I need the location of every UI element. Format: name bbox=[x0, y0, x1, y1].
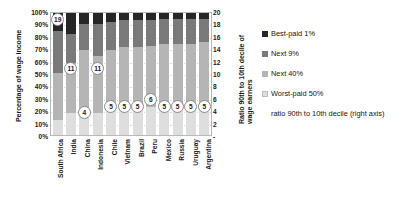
bar-segment bbox=[65, 113, 77, 135]
ratio-marker: 19 bbox=[51, 13, 64, 26]
bar-column: 11 bbox=[91, 13, 104, 135]
bar-segment bbox=[105, 109, 117, 135]
bar-group: 191141155565555 bbox=[51, 13, 211, 135]
bar-column: 5 bbox=[184, 13, 197, 135]
legend-item[interactable]: Best-paid 1% bbox=[262, 30, 408, 39]
legend-item[interactable]: Next 9% bbox=[262, 50, 408, 59]
legend-swatch-icon bbox=[262, 31, 268, 37]
secondary-axis-tick-label: 12 bbox=[213, 58, 220, 65]
stacked-bar-chart: Percentage of wage income 100%90%80%70%6… bbox=[0, 0, 412, 200]
y-axis-tick-label: 90% bbox=[35, 21, 48, 28]
secondary-axis-tick-labels: 2018161412108642- bbox=[213, 12, 229, 136]
y-axis-tick-label: 70% bbox=[35, 46, 48, 53]
x-axis-category-labels: South AfricaIndiaChinaIndonesiaChileViet… bbox=[50, 138, 212, 196]
y-axis-tick-label: 100% bbox=[31, 9, 48, 16]
y-axis-tick-label: 0% bbox=[38, 133, 48, 140]
bar-column: 5 bbox=[118, 13, 131, 135]
legend-label: Best-paid 1% bbox=[271, 30, 315, 39]
bar-segment bbox=[78, 24, 90, 50]
bar-column: 5 bbox=[198, 13, 211, 135]
ratio-marker: 5 bbox=[158, 100, 171, 113]
legend-swatch-icon bbox=[262, 111, 268, 117]
bar-column: 6 bbox=[144, 13, 157, 135]
x-axis-category-label: Argentina bbox=[205, 139, 212, 170]
secondary-axis-tick-label: 18 bbox=[213, 21, 220, 28]
secondary-axis-tick-label: 10 bbox=[213, 71, 220, 78]
x-axis-category-cell: South Africa bbox=[50, 138, 64, 196]
x-axis-category-cell: Argentina bbox=[199, 138, 213, 196]
bar-segment bbox=[158, 19, 170, 43]
bar-column: 4 bbox=[78, 13, 91, 135]
legend-swatch-icon bbox=[262, 91, 268, 97]
y-axis-tick-label: 30% bbox=[35, 95, 48, 102]
bar-segment bbox=[52, 120, 64, 135]
x-axis-category-cell: Indonesia bbox=[91, 138, 105, 196]
bar-segment bbox=[65, 13, 77, 34]
secondary-axis-tick-label: 6 bbox=[213, 95, 217, 102]
bar-segment bbox=[92, 13, 104, 24]
bar-segment bbox=[185, 44, 197, 107]
bar-segment bbox=[92, 24, 104, 56]
secondary-axis-title: Ratio 90th to 10th decile of wage earner… bbox=[238, 16, 255, 124]
x-axis-category-cell: Uruguay bbox=[185, 138, 199, 196]
bar-segment bbox=[172, 19, 184, 43]
bar-segment bbox=[105, 22, 117, 50]
secondary-axis-tick-label: 14 bbox=[213, 46, 220, 53]
bar-segment bbox=[65, 34, 77, 63]
bar-segment bbox=[105, 13, 117, 22]
bar-segment bbox=[92, 113, 104, 135]
bar-segment bbox=[145, 13, 157, 20]
secondary-axis-tick-label: 20 bbox=[213, 9, 220, 16]
bar-segment bbox=[118, 20, 130, 47]
legend-item[interactable]: Worst-paid 50% bbox=[262, 90, 408, 99]
x-axis-category-cell: China bbox=[77, 138, 91, 196]
y-axis-tick-label: 20% bbox=[35, 108, 48, 115]
secondary-axis-tick-label: - bbox=[213, 133, 215, 140]
legend-label: Next 40% bbox=[271, 70, 303, 79]
plot-area: 191141155565555 bbox=[50, 12, 212, 136]
legend-label: Next 9% bbox=[271, 50, 299, 59]
legend-item[interactable]: Next 40% bbox=[262, 70, 408, 79]
bar-segment bbox=[132, 20, 144, 47]
y-axis-tick-label: 80% bbox=[35, 33, 48, 40]
y-axis-tick-label: 60% bbox=[35, 58, 48, 65]
x-axis-category-cell: India bbox=[64, 138, 78, 196]
bar-segment bbox=[78, 13, 90, 24]
bar-segment bbox=[132, 13, 144, 20]
bar-segment bbox=[158, 44, 170, 107]
bar-segment bbox=[52, 31, 64, 72]
ratio-marker: 5 bbox=[198, 100, 211, 113]
ratio-marker: 5 bbox=[104, 100, 117, 113]
ratio-marker: 5 bbox=[171, 100, 184, 113]
bar-segment bbox=[172, 44, 184, 107]
y-axis-tick-label: 50% bbox=[35, 71, 48, 78]
secondary-axis-tick-label: 16 bbox=[213, 33, 220, 40]
bar-segment bbox=[118, 13, 130, 20]
ratio-marker: 5 bbox=[184, 100, 197, 113]
legend: Best-paid 1%Next 9%Next 40%Worst-paid 50… bbox=[262, 30, 408, 130]
ratio-marker: 5 bbox=[118, 100, 131, 113]
x-axis-category-cell: Peru bbox=[145, 138, 159, 196]
legend-swatch-icon bbox=[262, 51, 268, 57]
secondary-axis-tick-label: 8 bbox=[213, 83, 217, 90]
bar-column: 11 bbox=[64, 13, 77, 135]
legend-label: Worst-paid 50% bbox=[271, 90, 323, 99]
bar-segment bbox=[52, 73, 64, 121]
bar-segment bbox=[145, 20, 157, 46]
y-axis-tick-labels: 100%90%80%70%60%50%40%30%20%10%0% bbox=[22, 12, 48, 136]
legend-swatch-icon bbox=[262, 71, 268, 77]
x-axis-category-cell: Brazil bbox=[131, 138, 145, 196]
y-axis-tick-label: 10% bbox=[35, 120, 48, 127]
legend-item[interactable]: ratio 90th to 10th decile (right axis) bbox=[262, 110, 408, 119]
y-axis-tick-label: 40% bbox=[35, 83, 48, 90]
ratio-marker: 5 bbox=[131, 100, 144, 113]
bar-column: 5 bbox=[158, 13, 171, 135]
bar-segment bbox=[198, 19, 210, 42]
secondary-axis-tick-label: 4 bbox=[213, 108, 217, 115]
bar-segment bbox=[132, 47, 144, 108]
legend-label: ratio 90th to 10th decile (right axis) bbox=[271, 110, 384, 119]
x-axis-category-cell: Chile bbox=[104, 138, 118, 196]
bar-segment bbox=[198, 42, 210, 107]
bar-column: 19 bbox=[51, 13, 64, 135]
bar-column: 5 bbox=[104, 13, 117, 135]
